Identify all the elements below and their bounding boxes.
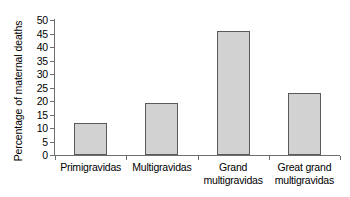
y-axis-tick-label: 25 — [25, 83, 48, 93]
plot-area — [55, 20, 340, 155]
y-axis-tick-mark — [50, 88, 54, 89]
x-axis-tick-mark — [126, 156, 127, 160]
bar — [74, 123, 107, 155]
y-axis-tick-label: 10 — [25, 123, 48, 133]
y-axis-tick-mark — [50, 128, 54, 129]
x-axis-tick-mark — [55, 156, 56, 160]
x-axis-category-label: Great grand multigravidas — [263, 161, 346, 187]
y-axis-tick-mark — [50, 20, 54, 21]
bar — [288, 93, 321, 155]
y-axis-tick-mark — [50, 34, 54, 35]
x-axis-tick-mark — [198, 156, 199, 160]
x-axis-tick-mark — [340, 156, 341, 160]
y-axis-tick-label: 30 — [25, 69, 48, 79]
y-axis-tick-label: 0 — [25, 150, 48, 160]
y-axis-tick-mark — [50, 142, 54, 143]
y-axis-tick-mark — [50, 74, 54, 75]
y-axis-tick-mark — [50, 155, 54, 156]
y-axis-tick-label: 40 — [25, 42, 48, 52]
y-axis-title: Percentage of maternal deaths — [11, 16, 25, 166]
y-axis-tick-label: 50 — [25, 15, 48, 25]
y-axis-tick-mark — [50, 47, 54, 48]
y-axis-tick-label: 5 — [25, 137, 48, 147]
bar — [217, 31, 250, 155]
y-axis-tick-label: 45 — [25, 29, 48, 39]
y-axis-tick-mark — [50, 61, 54, 62]
bar-chart: Percentage of maternal deaths 5045403530… — [0, 0, 350, 197]
y-axis-tick-labels: 50454035302520151050 — [25, 14, 48, 162]
bar — [145, 103, 178, 155]
y-axis-tick-mark — [50, 101, 54, 102]
x-axis-tick-mark — [269, 156, 270, 160]
y-axis-tick-mark — [50, 115, 54, 116]
y-axis-tick-label: 20 — [25, 96, 48, 106]
y-axis-tick-label: 35 — [25, 56, 48, 66]
y-axis-tick-label: 15 — [25, 110, 48, 120]
x-axis-category-labels: PrimigravidasMultigravidasGrand multigra… — [55, 161, 340, 197]
